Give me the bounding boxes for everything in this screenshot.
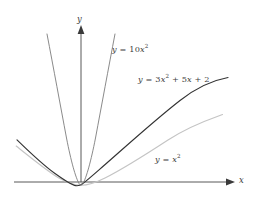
label-c3521-middle-term: + 5 [169,74,187,84]
curve-label-x-squared: y = x2 [155,155,181,163]
parabola-comparison-figure: y x y = 10x2 y = 3x2 + 5x + 2 y = x2 [0,0,256,211]
label-c1-exponent: 2 [177,153,181,159]
x-axis-arrowhead [226,178,235,185]
y-axis-label: y [77,15,82,23]
curve-y-equals-x-squared [16,115,222,186]
graph-canvas [0,0,256,211]
y-axis-arrowhead [78,25,85,34]
x-axis-label: x [239,176,244,184]
curve-label-10x-squared: y = 10x2 [112,45,149,53]
label-c10-exponent: 2 [145,43,149,49]
label-c3521-equals: = [143,74,156,84]
label-c1-equals: = [160,154,173,164]
label-c10-coefficient: 10 [129,44,140,54]
label-c10-equals: = [117,44,130,54]
curve-y-equals-3x-squared-plus-5x-plus-2 [17,78,228,186]
curve-label-3x-squared-plus-5x-plus-2: y = 3x2 + 5x + 2 [138,75,210,83]
label-c3521-constant-term: + 2 [192,74,210,84]
